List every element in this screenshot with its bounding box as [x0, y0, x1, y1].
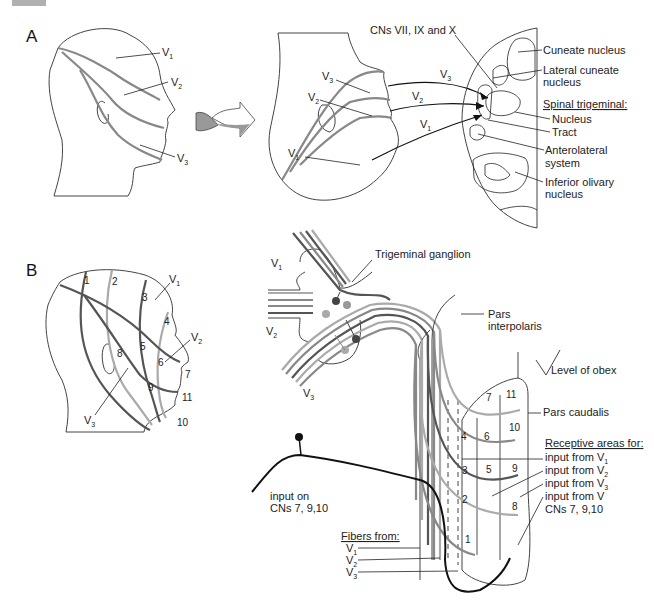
arrow-v3-label: V3: [440, 68, 451, 82]
svg-text:4: 4: [164, 316, 170, 327]
receptive-cns: CNs 7, 9,10: [545, 503, 603, 515]
svg-text:1: 1: [465, 534, 471, 545]
svg-text:2: 2: [112, 276, 118, 287]
pars-interpolaris-label-2: interpolaris: [488, 320, 542, 332]
head-a-v2-label: V2: [171, 76, 182, 90]
svg-text:6: 6: [484, 431, 490, 442]
rotated-face: [269, 33, 398, 200]
head-a-v3-label: V3: [177, 152, 188, 166]
receptive-v2: input from V2: [545, 464, 608, 478]
svg-text:3: 3: [462, 465, 468, 476]
spinal-trigeminal-label: Spinal trigeminal:: [543, 98, 627, 110]
pars-caudalis-label: Pars caudalis: [543, 406, 610, 418]
receptive-v1: input from V1: [545, 451, 608, 465]
svg-text:10: 10: [509, 422, 521, 433]
lateral-cuneate-label-2: nucleus: [543, 76, 581, 88]
caudalis-fibers: [252, 330, 520, 592]
level-of-obex-label: Level of obex: [551, 364, 617, 376]
head-a-v1-label: V1: [162, 46, 173, 60]
arrow-v1-label: V1: [420, 118, 431, 132]
olivary-label-1: Inferior olivary: [545, 176, 615, 188]
head-b-v1-label: V1: [169, 273, 180, 287]
fiber-v3-label: V3: [346, 566, 357, 580]
pars-interpolaris-label-1: Pars: [488, 308, 511, 320]
anterolateral-label-1: Anterolateral: [545, 144, 607, 156]
head-b-v3-label: V3: [84, 414, 95, 428]
rotation-arrow-icon: [196, 102, 255, 137]
svg-text:11: 11: [506, 389, 517, 400]
svg-text:7: 7: [185, 369, 191, 380]
head-b-v2-label: V2: [191, 331, 202, 345]
lateral-cuneate-label-1: Lateral cuneate: [543, 64, 619, 76]
svg-text:7: 7: [486, 392, 492, 403]
face-v2-label: V2: [308, 91, 319, 105]
face-v3-label: V3: [322, 70, 333, 84]
olivary-label-2: nucleus: [545, 188, 583, 200]
svg-text:5: 5: [486, 464, 492, 475]
arrow-v2-label: V2: [412, 90, 423, 104]
svg-text:10: 10: [177, 417, 189, 428]
trigeminal-ganglion-label: Trigeminal ganglion: [375, 248, 471, 260]
nerve-v1-label: V1: [271, 257, 282, 271]
cns-label: CNs VII, IX and X: [370, 24, 457, 36]
svg-text:11: 11: [182, 392, 193, 403]
receptive-areas-title: Receptive areas for:: [545, 437, 643, 449]
nerve-v3-label: V3: [303, 387, 314, 401]
svg-text:8: 8: [117, 348, 123, 359]
panel-a-label: A: [26, 27, 38, 46]
svg-text:3: 3: [142, 292, 148, 303]
svg-text:4: 4: [461, 431, 467, 442]
projection-arrows: [372, 82, 488, 160]
tract-label: Tract: [552, 126, 577, 138]
receptive-v3: input from V3: [545, 477, 608, 491]
input-on-label-2: CNs 7, 9,10: [270, 502, 328, 514]
nucleus-label: Nucleus: [552, 113, 592, 125]
svg-text:5: 5: [140, 341, 146, 352]
svg-text:2: 2: [462, 494, 468, 505]
trigeminal-diagram: A V1 V2 V3 V3 V2 V1 V: [0, 0, 654, 611]
nerve-v2-label: V2: [266, 325, 277, 339]
svg-text:9: 9: [512, 463, 518, 474]
svg-text:1: 1: [84, 275, 90, 286]
svg-text:8: 8: [512, 501, 518, 512]
svg-text:6: 6: [158, 357, 164, 368]
fibers-from-title: Fibers from:: [341, 530, 400, 542]
head-a: [49, 29, 175, 196]
receptive-v: input from V: [545, 490, 605, 502]
input-on-label-1: input on: [270, 490, 309, 502]
face-v1-label: V1: [288, 147, 299, 161]
panel-b-label: B: [26, 261, 37, 280]
anterolateral-label-2: system: [545, 157, 580, 169]
svg-text:9: 9: [148, 382, 154, 393]
cuneate-nucleus-label: Cuneate nucleus: [543, 44, 626, 56]
